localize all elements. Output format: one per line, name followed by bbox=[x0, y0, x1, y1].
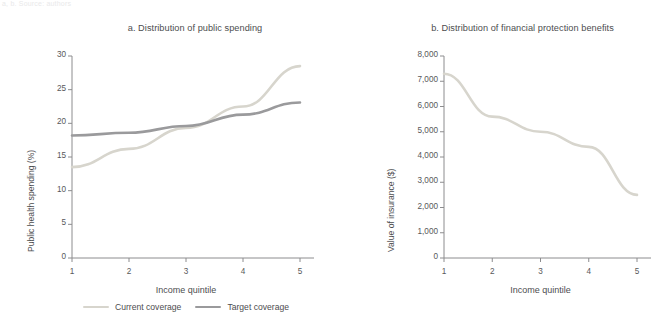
y-tick-label: 7,000 bbox=[418, 75, 439, 84]
y-tick-label: 6,000 bbox=[418, 101, 439, 110]
y-tick-label: 25 bbox=[57, 84, 66, 93]
legend-item-current-coverage[interactable]: Current coverage bbox=[83, 302, 181, 312]
series-line-current-coverage bbox=[72, 66, 300, 167]
y-tick-label: 15 bbox=[57, 151, 66, 160]
x-tick-label: 4 bbox=[231, 267, 255, 276]
y-tick-label: 10 bbox=[57, 185, 66, 194]
x-tick-label: 2 bbox=[480, 267, 504, 276]
x-tick-label: 3 bbox=[529, 267, 553, 276]
x-tick-label: 2 bbox=[117, 267, 141, 276]
series-line-target-coverage bbox=[72, 102, 300, 135]
x-tick-label: 3 bbox=[174, 267, 198, 276]
x-tick-label: 5 bbox=[625, 267, 649, 276]
y-tick-label: 5 bbox=[61, 218, 66, 227]
y-tick-label: 0 bbox=[433, 252, 438, 261]
panel-a-y-axis-title: Public health spending (%) bbox=[26, 150, 36, 252]
y-tick-label: 20 bbox=[57, 117, 66, 126]
legend-item-target-coverage[interactable]: Target coverage bbox=[195, 302, 289, 312]
panel-b-plot bbox=[372, 0, 667, 329]
chart-panel-b: b. Distribution of financial protection … bbox=[372, 0, 667, 329]
x-tick-label: 5 bbox=[288, 267, 312, 276]
y-tick-label: 5,000 bbox=[418, 126, 439, 135]
panel-a-plot bbox=[0, 0, 372, 329]
panel-b-y-axis-title: Value of insurance ($) bbox=[386, 169, 396, 252]
y-tick-label: 8,000 bbox=[418, 50, 439, 59]
y-tick-label: 1,000 bbox=[418, 227, 439, 236]
figure-root: a, b. Source: authors a. Distribution of… bbox=[0, 0, 667, 329]
x-tick-label: 1 bbox=[432, 267, 456, 276]
y-tick-label: 2,000 bbox=[418, 202, 439, 211]
legend-label-target: Target coverage bbox=[227, 302, 289, 312]
legend-swatch-icon-target bbox=[195, 306, 221, 309]
legend-swatch-icon-current bbox=[83, 306, 109, 309]
y-tick-label: 4,000 bbox=[418, 151, 439, 160]
x-tick-label: 4 bbox=[577, 267, 601, 276]
y-tick-label: 3,000 bbox=[418, 176, 439, 185]
panel-b-x-axis-title: Income quintile bbox=[444, 285, 637, 295]
chart-panel-a: a. Distribution of public spending Publi… bbox=[0, 0, 372, 329]
panel-a-x-axis-title: Income quintile bbox=[72, 285, 300, 295]
legend-label-current: Current coverage bbox=[115, 302, 181, 312]
y-tick-label: 30 bbox=[57, 50, 66, 59]
chart-legend: Current coverage Target coverage bbox=[0, 302, 372, 312]
x-tick-label: 1 bbox=[60, 267, 84, 276]
y-tick-label: 0 bbox=[61, 252, 66, 261]
series-line-current-coverage bbox=[444, 74, 637, 195]
